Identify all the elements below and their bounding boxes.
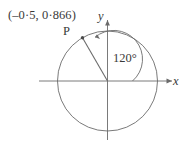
radius-ray-to-p: [81, 36, 108, 81]
radius-line: [83, 38, 108, 81]
math-diagram-unit-circle: (–0·5, 0·866) P 120° y x: [0, 0, 186, 145]
point-p-marker: [81, 36, 84, 39]
x-axis-label: x: [173, 75, 179, 88]
point-coordinates-label: (–0·5, 0·866): [8, 9, 76, 22]
y-axis-label: y: [98, 10, 104, 23]
x-axis: [39, 79, 172, 84]
angle-measure-label: 120°: [113, 52, 137, 65]
x-axis-arrow-icon: [167, 79, 173, 84]
y-axis-arrow-icon: [105, 20, 110, 26]
point-label-p: P: [63, 25, 70, 38]
